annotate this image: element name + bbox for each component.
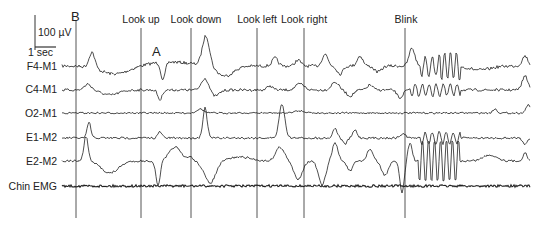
event-look-left-label: Look left	[237, 13, 277, 25]
channel-label-o2-m1: O2-M1	[25, 107, 57, 119]
channel-label-c4-m1: C4-M1	[25, 83, 57, 95]
psg-figure: 100 µV 1 sec B A Look up Look down Look …	[0, 0, 541, 226]
marker-b-label: B	[71, 9, 80, 24]
marker-a-label: A	[152, 44, 161, 59]
trace-o2-m1	[62, 105, 530, 114]
channel-label-chin-emg: Chin EMG	[9, 180, 57, 192]
event-look-up-label: Look up	[122, 13, 159, 25]
scale-time-label: 1 sec	[28, 46, 53, 58]
event-look-down-label: Look down	[171, 13, 222, 25]
channel-label-e1-m2: E1-M2	[26, 131, 57, 143]
scale-amplitude-label: 100 µV	[38, 26, 72, 38]
channel-label-e2-m2: E2-M2	[26, 155, 57, 167]
event-blink-label: Blink	[395, 13, 418, 25]
channel-traces	[62, 35, 530, 193]
channel-label-f4-m1: F4-M1	[27, 60, 57, 72]
event-look-right-label: Look right	[281, 13, 327, 25]
trace-chin-emg	[62, 185, 530, 187]
trace-canvas	[0, 0, 541, 226]
trace-f4-m1	[62, 35, 530, 79]
event-marker-lines	[76, 20, 405, 218]
